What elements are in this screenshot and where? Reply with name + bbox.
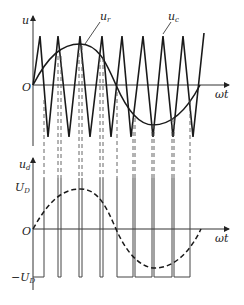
ur-leader-line [85, 22, 100, 44]
reference-label: ur [100, 10, 111, 24]
carrier-label: uc [168, 10, 179, 24]
pwm-output-waveform [33, 178, 190, 277]
uc-leader-line [163, 22, 171, 34]
neg-level-label: −UD [11, 271, 36, 285]
pos-level-label: UD [15, 181, 30, 195]
top-x-axis-label: ωt [215, 88, 229, 101]
top-y-axis-label: u [22, 14, 29, 27]
bottom-x-axis-label: ωt [215, 232, 229, 245]
bottom-y-axis-label: ud [19, 158, 31, 172]
top-plot: u O ωt ur uc [22, 10, 229, 146]
bottom-origin-label: O [22, 225, 31, 238]
pwm-diagram: u O ωt ur uc [0, 0, 244, 305]
top-origin-label: O [22, 81, 31, 94]
